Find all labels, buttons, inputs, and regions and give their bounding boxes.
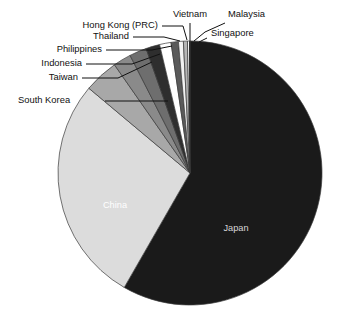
slice-label-taiwan: Taiwan [49,71,78,82]
slice-label-philippines: Philippines [57,43,103,54]
slice-label-indonesia: Indonesia [41,57,82,68]
slice-label-thailand: Thailand [93,30,129,41]
slice-label-japan: Japan [223,223,248,233]
pie-chart-figure: South Korea Taiwan Indonesia Philippines… [0,0,338,327]
slice-label-singapore: Singapore [211,27,254,38]
pie-slices-group [58,41,322,305]
leader-line-thailand [133,37,180,41]
slice-label-south-korea: South Korea [18,94,71,105]
pie-chart-svg: South Korea Taiwan Indonesia Philippines… [0,0,338,327]
slice-label-hong-kong: Hong Kong (PRC) [82,19,158,30]
slice-label-malaysia: Malaysia [228,8,266,19]
slice-label-vietnam: Vietnam [173,8,207,19]
slice-label-china: China [103,200,128,210]
